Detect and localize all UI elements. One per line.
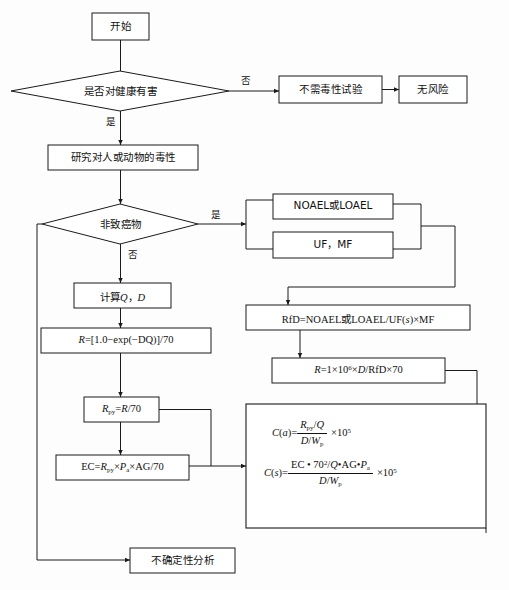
calcqd-comma: ，	[128, 291, 138, 303]
cs-den-d: D	[319, 475, 327, 486]
rfd-tail: )×MF	[410, 314, 435, 325]
ca-times: ×10	[331, 427, 347, 438]
label-rpy-formula: Rpy=R/70	[84, 403, 159, 415]
label-r-rfd-formula: R=1×106×D/RfD×70	[272, 364, 445, 375]
label-no-tox-test: 不需毒性试验	[279, 84, 382, 95]
edge-label-noncarcinogen-yes: 是	[209, 210, 223, 220]
rfd-rhs: LOAEL/UF(	[351, 314, 405, 325]
r-rfd-eq: =1×10	[321, 364, 349, 375]
ca-fraction: Rpy/QD/Wp	[297, 418, 327, 448]
label-formula-c-s: C(s)=EC • 702/Q•AG•PaD/Wp×105	[264, 459, 397, 489]
calcqd-prefix: 计算	[100, 291, 120, 303]
cs-exp: 5	[393, 467, 396, 474]
ec-sub-py: py	[107, 466, 114, 473]
label-noael-loael: NOAEL或LOAEL	[273, 200, 393, 211]
edge-r-rfd-to-concentration	[445, 371, 477, 405]
cs-num-p-sub: a	[367, 464, 370, 471]
rfd-cjk-or: 或	[341, 313, 351, 325]
cs-den-sub: p	[338, 480, 341, 487]
label-rfd-formula: RfD=NOAEL或LOAEL/UF(s)×MF	[246, 311, 470, 326]
ca-den-w: W	[311, 435, 320, 446]
ca-num-q: Q	[316, 419, 324, 430]
label-start: 开始	[92, 21, 149, 32]
ca-exp: 5	[347, 427, 350, 434]
ec-prefix: EC=	[81, 461, 100, 472]
cs-fn: C	[264, 467, 271, 478]
cs-fraction: EC • 702/Q•AG•PaD/Wp	[288, 458, 373, 488]
label-uf-mf: UF，MF	[273, 239, 393, 250]
edge-label-noncarcinogen-no: 否	[126, 250, 140, 260]
cs-num-q: Q	[330, 459, 338, 470]
rfd-lhs: RfD=NOAEL	[282, 314, 342, 325]
calcqd-var-d: D	[138, 292, 146, 303]
rpy-tail: /70	[128, 403, 141, 414]
edge-feedback-left-rail	[37, 224, 130, 560]
ca-num-sub: py	[307, 424, 314, 431]
ca-fn: C	[272, 427, 279, 438]
r-rfd-tail: /RfD×70	[365, 364, 402, 375]
label-study-toxicity: 研究对人或动物的毒性	[48, 152, 198, 163]
edge-label-health-harm-no: 否	[239, 76, 253, 86]
label-no-risk: 无风险	[399, 84, 467, 95]
calcqd-var-q: Q	[120, 292, 128, 303]
cs-num-ag: AG	[342, 459, 357, 470]
rexp-body: =[1.0−exp(−DQ)]/70	[85, 334, 174, 345]
ec-tail: AG/70	[135, 461, 164, 472]
label-calc-qd: 计算Q，D	[74, 289, 171, 304]
label-r-exp-formula: R=[1.0−exp(−DQ)]/70	[41, 334, 211, 345]
label-formula-c-a: C(a)=Rpy/QD/Wp×105	[272, 419, 351, 449]
ca-den-sub: p	[320, 440, 323, 447]
cs-times: ×10	[377, 467, 393, 478]
label-ec-formula: EC=Rpy×Pa×AG/70	[56, 461, 189, 473]
flowchart-canvas: 开始 是否对健康有害 否 是 不需毒性试验 无风险 研究对人或动物的毒性 非致癌…	[0, 0, 509, 590]
label-uncertainty: 不确定性分析	[130, 555, 235, 566]
label-decision-noncarcinogen: 非致癌物	[78, 219, 163, 230]
label-decision-health-harm: 是否对健康有害	[56, 86, 185, 97]
edge-label-health-harm-yes: 是	[104, 117, 118, 127]
edge-right-bracket-collect	[393, 204, 421, 249]
cs-num-ec: EC • 70	[291, 459, 324, 470]
